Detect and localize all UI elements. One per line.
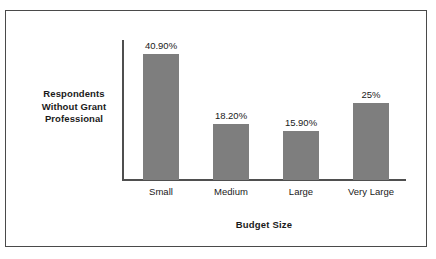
bar-medium — [213, 124, 249, 180]
bar-value-very-large: 25% — [331, 89, 411, 100]
y-axis-title: Respondents Without Grant Professional — [22, 88, 126, 126]
y-axis-line — [122, 40, 124, 181]
chart-figure: Respondents Without Grant Professional 4… — [0, 0, 436, 259]
x-axis-title: Budget Size — [122, 219, 406, 230]
y-axis-title-line-3: Professional — [22, 113, 126, 126]
bar-value-large: 15.90% — [261, 117, 341, 128]
plot-area: Respondents Without Grant Professional 4… — [0, 0, 436, 259]
bar-very-large — [353, 103, 389, 180]
y-axis-title-line-1: Respondents — [22, 88, 126, 101]
x-tick-label-very-large: Very Large — [326, 186, 416, 197]
bar-large — [283, 131, 319, 180]
bar-value-small: 40.90% — [121, 40, 201, 51]
bar-small — [143, 54, 179, 180]
bar-value-medium: 18.20% — [191, 110, 271, 121]
y-axis-title-line-2: Without Grant — [22, 101, 126, 114]
